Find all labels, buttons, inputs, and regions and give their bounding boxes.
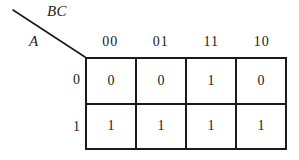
column-header-11: 11 — [186, 31, 237, 55]
column-header-10: 10 — [237, 31, 288, 55]
table-row: 1 1 1 1 — [87, 103, 285, 149]
cell-a0-bc11: 1 — [185, 59, 235, 103]
row-variable-label: A — [29, 34, 38, 49]
axis-corner-label: BC A — [0, 0, 90, 60]
column-variable-label: BC — [47, 4, 67, 19]
column-header-row: 00 01 11 10 — [85, 31, 287, 55]
karnaugh-map-grid: 0 0 1 0 1 1 1 1 — [85, 57, 287, 150]
cell-a0-bc01: 0 — [135, 59, 185, 103]
row-header-0: 0 — [58, 57, 80, 104]
diagonal-divider-line — [0, 0, 90, 60]
cell-a0-bc00: 0 — [87, 59, 135, 103]
column-header-00: 00 — [85, 31, 136, 55]
cell-a1-bc10: 1 — [235, 105, 285, 149]
row-header-column: 0 1 — [58, 57, 80, 150]
cell-a1-bc01: 1 — [135, 105, 185, 149]
cell-a0-bc10: 0 — [235, 59, 285, 103]
cell-a1-bc00: 1 — [87, 105, 135, 149]
table-row: 0 0 1 0 — [87, 59, 285, 103]
column-header-01: 01 — [136, 31, 187, 55]
karnaugh-map-figure: BC A 00 01 11 10 0 1 0 0 1 0 1 1 1 1 — [0, 0, 299, 160]
row-header-1: 1 — [58, 104, 80, 151]
cell-a1-bc11: 1 — [185, 105, 235, 149]
